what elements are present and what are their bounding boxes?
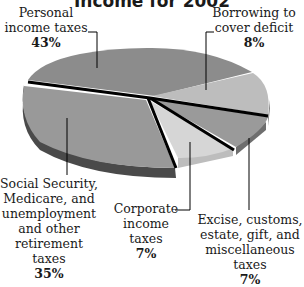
label-corporate: Corporate income taxes 7%: [106, 201, 186, 261]
label-excise: Excise, customs, estate, gift, and misce…: [196, 212, 304, 287]
label-personal: Personal income taxes 43%: [0, 5, 92, 50]
label-social: Social Security, Medicare, and unemploym…: [0, 176, 98, 281]
label-borrowing: Borrowing to cover deficit 8%: [204, 5, 304, 50]
